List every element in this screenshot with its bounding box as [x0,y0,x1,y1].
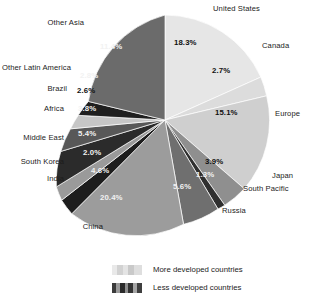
pie-value-india: 4.6% [91,166,109,175]
pie-label-other-latin-america: Other Latin America [1,63,71,72]
pie-label-africa: Africa [6,104,64,113]
pie-chart-graphic: 18.3% 2.7% 15.1% 3.9% 1.3% 5.6% 20.4% 4.… [0,0,316,250]
pie-label-china: China [45,222,103,231]
pie-label-russia: Russia [222,206,246,215]
chart-legend: More developed countries Less developed … [112,262,312,298]
pie-value-china: 20.4% [100,193,123,202]
pie-slices [56,15,269,236]
pie-value-south-korea: 2.0% [83,148,101,157]
pie-label-south-pacific: South Pacific [243,184,289,193]
pie-label-united-states: United States [213,4,260,13]
legend-label-less-developed: Less developed countries [153,283,241,293]
legend-swatch-more-developed-icon [112,265,142,275]
pie-value-russia: 5.6% [173,182,191,191]
pie-value-united-states: 18.3% [174,38,197,47]
pie-label-canada: Canada [262,41,289,50]
pie-label-other-asia: Other Asia [20,18,84,27]
pie-label-europe: Europe [275,109,300,118]
pie-svg [0,0,316,250]
legend-label-more-developed: More developed countries [153,265,243,275]
pie-value-south-pacific: 1.3% [196,170,214,179]
pie-slice-other-asia [88,15,165,120]
pie-chart-figure: 18.3% 2.7% 15.1% 3.9% 1.3% 5.6% 20.4% 4.… [0,0,316,307]
pie-value-africa: 3.8% [78,104,96,113]
legend-item-less-developed: Less developed countries [112,280,312,295]
pie-value-europe: 15.1% [215,108,238,117]
pie-value-other-asia: 11.4% [100,42,122,51]
pie-label-japan: Japan [272,171,293,180]
pie-value-japan: 3.9% [205,157,223,166]
pie-value-other-latin-america: 2.8% [80,71,98,80]
pie-label-south-korea: South Korea [2,157,64,166]
pie-label-india: India [17,174,64,183]
legend-item-more-developed: More developed countries [112,262,312,277]
pie-label-brazil: Brazil [6,84,67,93]
pie-value-brazil: 2.6% [77,86,95,95]
pie-value-middle-east: 5.4% [78,129,96,138]
pie-value-canada: 2.7% [212,66,230,75]
pie-label-middle-east: Middle East [2,133,64,142]
legend-swatch-less-developed-icon [112,283,142,293]
